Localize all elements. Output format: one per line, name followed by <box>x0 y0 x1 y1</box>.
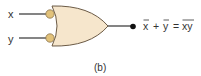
term-xy: xy <box>182 20 193 32</box>
output-expression: x + y = xy <box>143 20 194 32</box>
or-gate-diagram: x y x + y = xy (b) <box>0 0 201 76</box>
figure-caption: (b) <box>94 62 106 73</box>
term-x: x <box>143 20 149 32</box>
term-y: y <box>163 20 169 32</box>
inversion-bubble-x <box>46 10 54 18</box>
input-label-x: x <box>8 8 14 20</box>
or-gate-body <box>52 6 108 46</box>
operator-plus: + <box>153 20 159 32</box>
equals-sign: = <box>173 20 179 32</box>
output-terminal-dot <box>130 24 136 30</box>
input-label-y: y <box>8 33 14 45</box>
inversion-bubble-y <box>46 34 54 42</box>
